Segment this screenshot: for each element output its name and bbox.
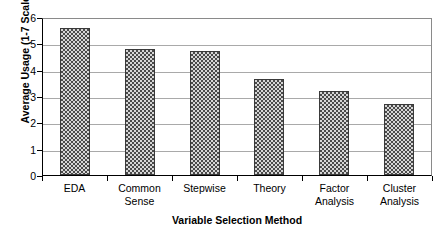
x-axis-category-label-line: Cluster (367, 182, 432, 195)
x-axis-category-label-line: Factor (302, 182, 367, 195)
x-axis-tickmark (302, 176, 303, 181)
x-axis-category-labels: EDACommonSenseStepwiseTheoryFactorAnalys… (42, 182, 432, 207)
y-axis-tick-label: 1 (30, 144, 36, 155)
bar-slot (237, 19, 302, 175)
bar (190, 51, 220, 175)
y-axis-tick-label: 4 (30, 65, 36, 76)
x-axis-category-label-line: Common (107, 182, 172, 195)
x-axis-tickmarks (42, 176, 432, 181)
y-axis-tick-labels: 0123456 (0, 18, 42, 176)
bar (254, 79, 284, 175)
bar (60, 28, 90, 175)
bar-slot (108, 19, 173, 175)
x-axis-tickmark (172, 176, 173, 181)
bar-chart: Average Usage (1-7 Scale) 0123456 EDACom… (0, 0, 446, 235)
x-axis-title: Variable Selection Method (42, 214, 432, 226)
x-axis-category-label-line: EDA (42, 182, 107, 195)
x-axis-tickmark (432, 176, 433, 181)
x-axis-category-label: FactorAnalysis (302, 182, 367, 207)
bar-slot (366, 19, 431, 175)
x-axis-category-label: CommonSense (107, 182, 172, 207)
x-axis-category-label-line: Sense (107, 195, 172, 208)
x-axis-category-label: Stepwise (172, 182, 237, 207)
bar (384, 104, 414, 175)
x-axis-category-label: EDA (42, 182, 107, 207)
x-axis-category-label-line: Analysis (302, 195, 367, 208)
x-axis-tickmark (367, 176, 368, 181)
x-axis-category-label: ClusterAnalysis (367, 182, 432, 207)
bar-slot (302, 19, 367, 175)
plot-area (42, 18, 432, 176)
x-axis-category-label-line: Theory (237, 182, 302, 195)
bar (319, 91, 349, 175)
bar (125, 49, 155, 175)
y-axis-tick-label: 5 (30, 39, 36, 50)
y-axis-tick-label: 2 (30, 118, 36, 129)
y-axis-tick-label: 0 (30, 171, 36, 182)
y-axis-tick-label: 3 (30, 92, 36, 103)
x-axis-category-label-line: Stepwise (172, 182, 237, 195)
x-axis-tickmark (107, 176, 108, 181)
x-axis-tickmark (42, 176, 43, 181)
bar-series (43, 19, 431, 175)
x-axis-category-label: Theory (237, 182, 302, 207)
bar-slot (43, 19, 108, 175)
x-axis-category-label-line: Analysis (367, 195, 432, 208)
x-axis-tickmark (237, 176, 238, 181)
bar-slot (172, 19, 237, 175)
y-axis-tick-label: 6 (30, 13, 36, 24)
